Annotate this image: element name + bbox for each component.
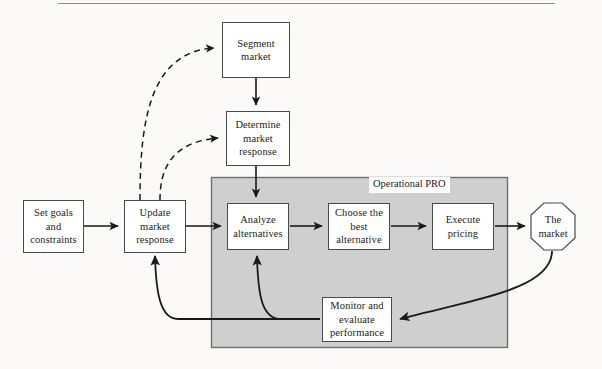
node-determine-market-response[interactable]: Determine market response [226,111,290,166]
header-rule [58,3,555,4]
node-the-market-label: The market [531,213,575,240]
node-analyze-alternatives-label: Analyze alternatives [229,213,287,240]
line-1: Execute [444,213,483,226]
line-2: market [538,228,567,239]
node-segment-market[interactable]: Segment market [222,22,290,78]
line-2: alternatives [231,227,285,240]
node-set-goals-and-constraints[interactable]: Set goals and constraints [23,200,84,253]
line-2: best [333,220,385,233]
line-3: performance [328,326,386,339]
edge-update-to-segment [140,48,214,200]
node-execute-pricing-label: Execute pricing [442,213,485,240]
node-analyze-alternatives[interactable]: Analyze alternatives [227,203,289,250]
line-2: market [134,220,176,233]
node-monitor-and-evaluate-performance[interactable]: Monitor and evaluate performance [322,297,392,342]
node-determine-market-response-label: Determine market response [231,118,284,158]
node-set-goals-label: Set goals and constraints [26,206,81,246]
line-2: pricing [444,227,483,240]
line-3: constraints [28,233,79,246]
operational-pro-label: Operational PRO [369,177,450,193]
node-segment-market-label: Segment market [233,37,278,64]
node-the-market[interactable]: The market [531,203,575,250]
line-1: The [545,214,561,225]
line-1: Choose the [333,206,385,219]
line-1: Set goals [28,206,79,219]
line-1: Monitor and [328,299,386,312]
line-2: market [235,50,276,63]
edge-update-to-determine [160,138,218,200]
line-3: alternative [333,233,385,246]
line-1: Segment [235,37,276,50]
figure-canvas: Operational PRO Segment market Determine… [0,0,602,369]
node-choose-best-alternative[interactable]: Choose the best alternative [328,203,390,250]
line-1: Update [134,206,176,219]
connector-layer [0,0,602,369]
node-execute-pricing[interactable]: Execute pricing [432,203,494,250]
line-2: market [233,132,282,145]
line-1: Analyze [231,213,285,226]
line-2: evaluate [328,313,386,326]
node-update-market-response-label: Update market response [132,206,178,246]
line-3: response [233,145,282,158]
line-3: response [134,233,176,246]
line-1: Determine [233,118,282,131]
node-monitor-evaluate-label: Monitor and evaluate performance [326,299,388,339]
node-choose-best-alternative-label: Choose the best alternative [331,206,387,246]
node-update-market-response[interactable]: Update market response [124,200,186,253]
line-2: and [28,220,79,233]
